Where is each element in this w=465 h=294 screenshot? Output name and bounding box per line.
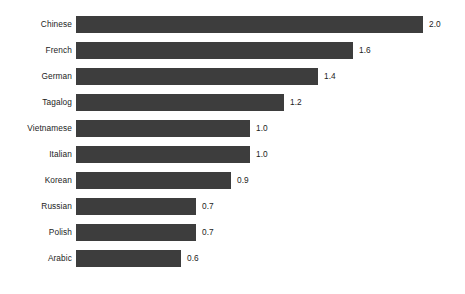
bar-chart: Chinese 2.0 French 1.6 German 1.4 Tagalo…: [0, 0, 465, 294]
bar-german[interactable]: [76, 68, 318, 85]
bar-french[interactable]: [76, 42, 353, 59]
bar-row: German 1.4: [0, 68, 465, 85]
bar-russian[interactable]: [76, 198, 196, 215]
bar-row: Italian 1.0: [0, 146, 465, 163]
category-label: Polish: [49, 224, 72, 241]
value-label: 1.2: [290, 94, 302, 111]
category-label: Vietnamese: [27, 120, 72, 137]
category-label: Arabic: [48, 250, 72, 267]
bar-row: Polish 0.7: [0, 224, 465, 241]
bar-italian[interactable]: [76, 146, 250, 163]
bar-row: Arabic 0.6: [0, 250, 465, 267]
bar-row: French 1.6: [0, 42, 465, 59]
bar-row: Chinese 2.0: [0, 16, 465, 33]
value-label: 1.4: [324, 68, 336, 85]
bar-arabic[interactable]: [76, 250, 181, 267]
bar-korean[interactable]: [76, 172, 231, 189]
value-label: 1.0: [256, 120, 268, 137]
category-label: German: [41, 68, 72, 85]
value-label: 0.7: [202, 198, 214, 215]
bar-tagalog[interactable]: [76, 94, 284, 111]
value-label: 0.7: [202, 224, 214, 241]
bar-chinese[interactable]: [76, 16, 423, 33]
category-label: Korean: [45, 172, 72, 189]
value-label: 0.9: [237, 172, 249, 189]
category-label: Italian: [49, 146, 72, 163]
bar-row: Russian 0.7: [0, 198, 465, 215]
bar-polish[interactable]: [76, 224, 196, 241]
bar-vietnamese[interactable]: [76, 120, 250, 137]
bar-row: Korean 0.9: [0, 172, 465, 189]
value-label: 0.6: [187, 250, 199, 267]
value-label: 2.0: [429, 16, 441, 33]
value-label: 1.6: [359, 42, 371, 59]
category-label: Russian: [41, 198, 72, 215]
category-label: French: [46, 42, 72, 59]
bar-row: Vietnamese 1.0: [0, 120, 465, 137]
category-label: Chinese: [41, 16, 72, 33]
value-label: 1.0: [256, 146, 268, 163]
category-label: Tagalog: [42, 94, 72, 111]
bar-row: Tagalog 1.2: [0, 94, 465, 111]
